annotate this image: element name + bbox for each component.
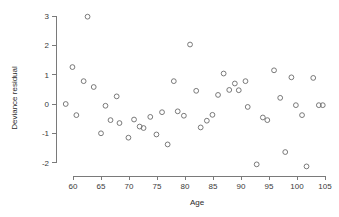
data-point (304, 164, 309, 169)
data-point (74, 113, 79, 118)
x-tick-label: 80 (181, 182, 190, 191)
plot-canvas: 3210-1-2 6065707580859095100105 Age Devi… (0, 0, 339, 217)
data-point (283, 150, 288, 155)
data-point (216, 93, 221, 98)
y-tick-label: 3 (45, 12, 50, 21)
y-tick-label: -1 (42, 129, 50, 138)
data-point (243, 79, 248, 84)
data-points (63, 14, 325, 169)
data-point (194, 88, 199, 93)
x-tick-label: 75 (153, 182, 162, 191)
data-point (132, 117, 137, 122)
data-point (85, 14, 90, 19)
data-point (265, 118, 270, 123)
x-tick-label: 85 (209, 182, 218, 191)
data-point (198, 125, 203, 130)
scatter-plot-figure: 3210-1-2 6065707580859095100105 Age Devi… (0, 0, 339, 217)
data-point (260, 115, 265, 120)
data-point (272, 68, 277, 73)
data-point (188, 42, 193, 47)
data-point (289, 75, 294, 80)
data-point (91, 85, 96, 90)
data-point (81, 79, 86, 84)
data-point (160, 110, 165, 115)
data-point (117, 121, 122, 126)
data-point (114, 94, 119, 99)
data-point (108, 118, 113, 123)
data-point (165, 142, 170, 147)
data-point (300, 113, 305, 118)
x-tick-label: 105 (318, 182, 332, 191)
x-tick-label: 70 (125, 182, 134, 191)
data-point (171, 79, 176, 84)
data-point (236, 88, 241, 93)
data-point (63, 102, 68, 107)
y-tick-label: 2 (45, 41, 50, 50)
data-point (221, 71, 226, 76)
data-point (99, 131, 104, 136)
data-point (103, 103, 108, 108)
data-point (148, 114, 153, 119)
data-point (232, 81, 237, 86)
x-axis-title: Age (190, 198, 205, 207)
data-point (70, 65, 75, 70)
data-point (245, 105, 250, 110)
x-tick-label: 90 (237, 182, 246, 191)
data-point (278, 95, 283, 100)
data-point (204, 118, 209, 123)
data-point (126, 135, 131, 140)
y-tick-label: 1 (45, 71, 50, 80)
x-tick-label: 60 (69, 182, 78, 191)
y-axis: 3210-1-2 (42, 12, 56, 168)
y-axis-title: Deviance residual (10, 66, 19, 130)
data-point (311, 76, 316, 81)
x-tick-label: 95 (265, 182, 274, 191)
y-tick-label: -2 (42, 159, 50, 168)
x-tick-label: 65 (97, 182, 106, 191)
x-axis: 6065707580859095100105 (69, 176, 333, 191)
data-point (210, 112, 215, 117)
data-point (254, 162, 259, 167)
x-tick-label: 100 (290, 182, 304, 191)
y-tick-label: 0 (45, 100, 50, 109)
data-point (181, 113, 186, 118)
data-point (227, 88, 232, 93)
data-point (154, 132, 159, 137)
data-point (175, 109, 180, 114)
data-point (293, 103, 298, 108)
